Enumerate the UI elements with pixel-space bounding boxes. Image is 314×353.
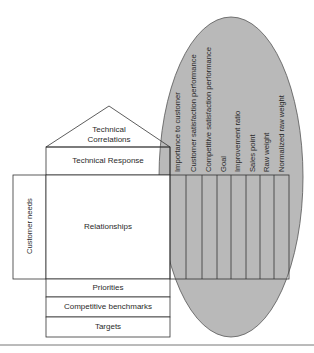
targets-label: Targets [46,322,170,332]
customer-needs-label: Customer needs [25,198,34,254]
technical-response-label: Technical Response [46,156,170,166]
column-header-customer-satisfaction-performance: Customer satisfaction performance [189,54,198,172]
column-header-sales-point: Sales point [248,134,257,172]
column-header-raw-weight: Raw weight [262,133,271,172]
column-header-importance-to-customer: Importance to customer [173,92,182,172]
house-of-quality-diagram [0,0,314,353]
competitive-benchmarks-label: Competitive benchmarks [46,302,170,312]
relationships-label: Relationships [46,222,170,232]
roof-label-line1: Technical [70,125,148,135]
column-header-normalized-raw-weight: Normalized raw weight [277,95,286,172]
priorities-label: Priorities [46,283,170,293]
roof-label-line2: Correlations [70,135,148,145]
column-header-goal: Goal [219,156,228,172]
column-header-improvement-ratio: Improvement ratio [233,111,242,172]
column-header-competitive-satisfaction-performance: Competitive satisfaction performance [204,47,213,172]
roof-label: Technical Correlations [70,125,148,145]
